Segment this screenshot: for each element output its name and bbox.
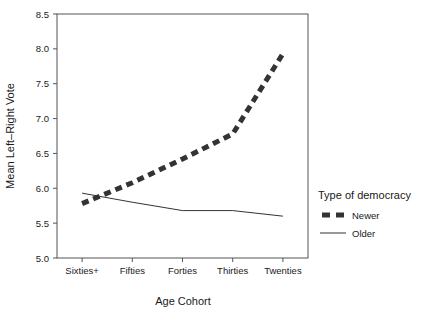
- line-chart: 5.05.56.06.57.07.58.08.5 Sixties+Fifties…: [0, 0, 432, 318]
- x-tick-label: Twenties: [264, 265, 302, 276]
- y-axis-title: Mean Left–Right Vote: [4, 83, 16, 189]
- legend-label-older: Older: [352, 228, 375, 239]
- series-layer: [82, 54, 283, 216]
- y-tick-label: 7.5: [36, 78, 49, 89]
- legend-title: Type of democracy: [318, 189, 411, 201]
- y-tick-label: 5.0: [36, 253, 49, 264]
- x-axis-title: Age Cohort: [155, 295, 211, 307]
- y-axis: 5.05.56.06.57.07.58.08.5: [36, 9, 57, 264]
- y-tick-label: 8.0: [36, 43, 49, 54]
- y-tick-label: 5.5: [36, 218, 49, 229]
- series-line-older: [82, 193, 283, 216]
- legend: Type of democracy Newer Older: [318, 189, 411, 239]
- series-line-newer: [82, 54, 283, 204]
- y-tick-label: 6.0: [36, 183, 49, 194]
- x-tick-label: Thirties: [217, 265, 248, 276]
- y-tick-label: 8.5: [36, 9, 49, 20]
- y-tick-label: 7.0: [36, 113, 49, 124]
- y-tick-label: 6.5: [36, 148, 49, 159]
- legend-item-newer[interactable]: Newer: [322, 210, 379, 221]
- x-tick-label: Sixties+: [65, 265, 99, 276]
- x-tick-label: Fifties: [120, 265, 146, 276]
- legend-label-newer: Newer: [352, 210, 379, 221]
- legend-item-older[interactable]: Older: [320, 228, 375, 239]
- x-tick-label: Forties: [168, 265, 197, 276]
- x-axis: Sixties+FiftiesFortiesThirtiesTwenties: [65, 258, 302, 276]
- plot-frame: [57, 14, 308, 258]
- chart-container: 5.05.56.06.57.07.58.08.5 Sixties+Fifties…: [0, 0, 432, 318]
